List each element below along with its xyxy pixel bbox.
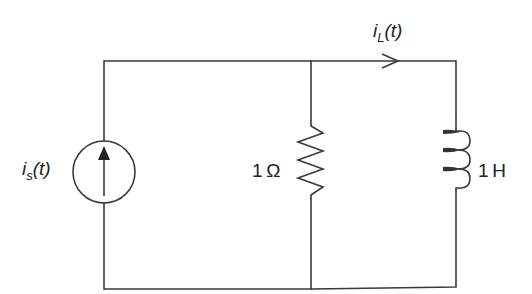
inductor-current-label: iL(t) [373,20,402,42]
inductor-turn-2 [443,167,461,172]
inductor-label: 1 H [478,160,506,182]
circuit-schematic [0,0,532,294]
inductor-turn-1 [443,148,461,153]
inductor [443,118,470,190]
inductor-coil [456,118,470,190]
bottom-wire [104,190,456,289]
top-wire [104,61,456,141]
resistor-zigzag [298,124,323,199]
current-source [73,141,135,203]
arrow-up-icon [98,146,110,160]
resistor-label: 1 Ω [252,160,281,182]
circuit-diagram: is(t) 1 Ω 1 H iL(t) [0,0,532,294]
resistor [298,124,323,199]
source-label: is(t) [22,158,51,180]
